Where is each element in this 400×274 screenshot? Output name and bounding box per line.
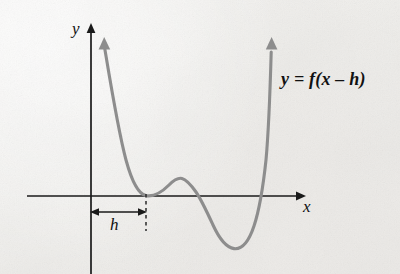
- math-figure: y x h y = f(x – h): [0, 0, 400, 274]
- x-axis-label: x: [303, 198, 311, 215]
- plot-canvas: [0, 0, 400, 274]
- y-axis-label: y: [72, 20, 80, 37]
- shift-amount-label: h: [110, 216, 119, 233]
- equation-label: y = f(x – h): [281, 70, 366, 88]
- y-axis: [87, 23, 96, 274]
- shift-measure-arrow: [90, 208, 147, 216]
- function-curve: [99, 37, 278, 249]
- x-axis: [27, 192, 306, 201]
